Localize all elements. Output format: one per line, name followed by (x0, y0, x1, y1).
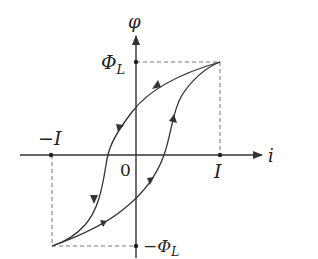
phi-L-label: ΦL (101, 51, 125, 77)
point-neg-phi-L (134, 244, 138, 248)
point-neg-I (49, 153, 53, 157)
arrow-desc-3-icon (90, 195, 98, 204)
point-I (218, 153, 222, 157)
y-axis-label: φ (128, 11, 141, 32)
arrow-desc-2-icon (116, 124, 124, 132)
point-phi-L (134, 60, 138, 64)
neg-I-label: −I (38, 127, 62, 149)
hysteresis-diagram: φ i 0 ΦL −ΦL I −I (0, 0, 318, 259)
I-label: I (213, 160, 222, 182)
origin-label: 0 (120, 160, 131, 180)
x-axis-label: i (268, 145, 274, 166)
arrow-asc-1-icon (100, 220, 107, 227)
neg-phi-L-label: −ΦL (143, 236, 179, 259)
arrow-asc-3-icon (169, 114, 177, 123)
